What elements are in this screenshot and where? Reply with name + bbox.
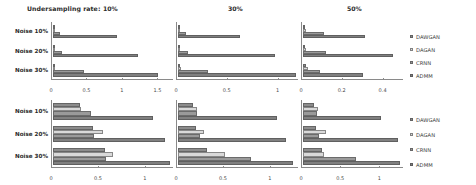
legend-swatch-icon [410, 35, 413, 38]
x-tick-label: 1 [276, 87, 279, 93]
bar-group [177, 100, 298, 123]
bar-admm[interactable] [178, 35, 240, 38]
bar-group [52, 41, 173, 60]
bar-admm[interactable] [53, 54, 138, 57]
plot-area [51, 100, 173, 168]
chart-header: Undersampling rate: 10% 30% 50% [0, 5, 476, 19]
legend-item-dagan[interactable]: DAGAN [410, 127, 440, 142]
bar-admm[interactable] [303, 35, 365, 38]
x-axis: 00.51 [51, 168, 173, 180]
bar-group [52, 61, 173, 80]
x-axis: 00.511.5 [51, 80, 173, 92]
bar-admm[interactable] [178, 138, 286, 142]
x-axis: 00.51 [301, 168, 403, 180]
legend-label: CRNN [416, 60, 431, 66]
bar-admm[interactable] [178, 73, 296, 76]
x-tick-label: 0.5 [82, 87, 90, 93]
bar-group [52, 145, 173, 168]
noise-level-label: Noise 20% [2, 131, 48, 137]
x-tick-label: 1 [268, 175, 271, 181]
x-axis: 00.51 [176, 168, 298, 180]
legend-label: DAWGAN [416, 117, 440, 123]
bar-admm[interactable] [53, 161, 170, 165]
bar-admm[interactable] [53, 73, 158, 76]
legend-item-crnn[interactable]: CRNN [410, 142, 440, 157]
plot-area [51, 22, 173, 80]
legend-bottom: DAWGANDAGANCRNNADMM [410, 112, 440, 172]
plot-area [176, 100, 298, 168]
bar-group [177, 41, 298, 60]
noise-level-label: Noise 10% [2, 108, 48, 114]
noise-level-label: Noise 20% [2, 48, 48, 54]
bar-group [302, 100, 403, 123]
legend-item-dagan[interactable]: DAGAN [410, 43, 440, 56]
panel-row0-col1: 00.51 [176, 22, 298, 92]
bar-admm[interactable] [53, 35, 117, 38]
bar-admm[interactable] [178, 54, 275, 57]
panel-row0-col2: 00.20.4 [301, 22, 403, 92]
bar-group [177, 145, 298, 168]
legend-top: DAWGANDAGANCRNNADMM [410, 30, 440, 82]
noise-level-label: Noise 30% [2, 67, 48, 73]
legend-swatch-icon [410, 61, 413, 64]
bar-group [52, 100, 173, 123]
x-tick-label: 0 [299, 87, 302, 93]
plot-area [301, 22, 403, 80]
x-tick-label: 0.5 [223, 87, 231, 93]
x-tick-label: 0.5 [336, 175, 344, 181]
undersampling-rate-value-1: 30% [228, 5, 243, 12]
bar-admm[interactable] [178, 116, 277, 120]
bar-group [302, 41, 403, 60]
bar-group [177, 123, 298, 146]
bar-admm[interactable] [303, 161, 400, 165]
bar-admm[interactable] [178, 161, 293, 165]
panel-row1-col0: 00.51 [51, 100, 173, 180]
x-tick-label: 0 [49, 87, 52, 93]
panel-row1-col1: 00.51 [176, 100, 298, 180]
legend-swatch-icon [410, 118, 413, 121]
x-tick-label: 1 [120, 87, 123, 93]
legend-item-dawgan[interactable]: DAWGAN [410, 30, 440, 43]
x-tick-label: 1 [378, 175, 381, 181]
x-axis: 00.20.4 [301, 80, 403, 92]
x-tick-label: 0 [49, 175, 52, 181]
legend-label: DAGAN [416, 132, 435, 138]
bar-admm[interactable] [53, 116, 153, 120]
legend-swatch-icon [410, 133, 413, 136]
undersampling-rate-value-0: 10% [103, 5, 118, 12]
x-tick-label: 0.4 [379, 87, 387, 93]
bar-admm[interactable] [53, 138, 165, 142]
plot-area [176, 22, 298, 80]
bar-group [302, 61, 403, 80]
legend-item-dawgan[interactable]: DAWGAN [410, 112, 440, 127]
undersampling-rate-value-2: 50% [347, 5, 362, 12]
legend-item-crnn[interactable]: CRNN [410, 56, 440, 69]
noise-level-label: Noise 30% [2, 153, 48, 159]
panel-grid: Noise 10%Noise 20%Noise 30%Noise 10%Nois… [0, 19, 476, 185]
legend-swatch-icon [410, 163, 413, 166]
figure-root: Undersampling rate: 10% 30% 50% Noise 10… [0, 0, 476, 185]
x-tick-label: 1.5 [153, 87, 161, 93]
bar-group [302, 22, 403, 41]
legend-item-admm[interactable]: ADMM [410, 69, 440, 82]
legend-label: CRNN [416, 147, 431, 153]
x-tick-label: 0 [174, 175, 177, 181]
panel-row1-col2: 00.51 [301, 100, 403, 180]
legend-swatch-icon [410, 48, 413, 51]
plot-area [301, 100, 403, 168]
legend-label: DAWGAN [416, 34, 440, 40]
legend-item-admm[interactable]: ADMM [410, 157, 440, 172]
bar-group [52, 123, 173, 146]
bar-admm[interactable] [303, 54, 393, 57]
bar-group [52, 22, 173, 41]
bar-admm[interactable] [303, 116, 381, 120]
bar-admm[interactable] [303, 138, 398, 142]
undersampling-rate-title: Undersampling rate: [27, 5, 100, 12]
bar-group [177, 22, 298, 41]
bar-group [177, 61, 298, 80]
bar-group [302, 145, 403, 168]
legend-label: ADMM [416, 162, 433, 168]
bar-admm[interactable] [303, 73, 363, 76]
x-tick-label: 0.5 [94, 175, 102, 181]
x-tick-label: 0 [174, 87, 177, 93]
